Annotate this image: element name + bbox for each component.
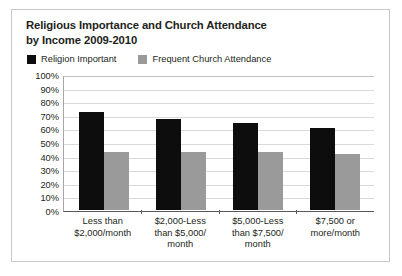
x-axis-tick-label: $5,000-Lessthan $7,500/month xyxy=(219,216,297,251)
chart-title: Religious Importance and Church Attendan… xyxy=(26,18,366,47)
bar-group xyxy=(297,76,374,210)
bar xyxy=(79,112,104,210)
x-axis-tick-mark xyxy=(296,210,297,214)
legend-label: Frequent Church Attendance xyxy=(152,54,271,64)
y-axis-tick-label: 90% xyxy=(19,85,59,95)
bar xyxy=(258,152,283,210)
y-axis-tick-label: 0% xyxy=(19,207,59,217)
bar xyxy=(181,152,206,210)
x-axis-tick-label: $7,500 ormore/month xyxy=(297,216,375,251)
chart-figure: Religious Importance and Church Attendan… xyxy=(11,9,390,262)
bar-group xyxy=(65,76,142,210)
legend-swatch-icon xyxy=(27,55,36,64)
y-axis-tick-label: 70% xyxy=(19,112,59,122)
bar xyxy=(104,152,129,210)
bar xyxy=(335,154,360,210)
y-axis-tick-label: 40% xyxy=(19,153,59,163)
y-axis-tick-label: 50% xyxy=(19,139,59,149)
y-axis-tick-label: 60% xyxy=(19,125,59,135)
y-axis-tick-label: 30% xyxy=(19,166,59,176)
x-axis-tick-mark xyxy=(219,210,220,214)
plot-area xyxy=(63,76,374,212)
x-axis-tick-label: Less than$2,000/month xyxy=(64,216,142,251)
legend-item-frequent-church-attendance: Frequent Church Attendance xyxy=(138,54,271,64)
legend-item-religion-important: Religion Important xyxy=(27,54,116,64)
plot-region: 100%90%80%70%60%50%40%30%20%10%0% xyxy=(63,76,374,212)
bar xyxy=(156,119,181,210)
chart-title-line-2: by Income 2009-2010 xyxy=(26,33,366,48)
y-axis-tick-label: 10% xyxy=(19,193,59,203)
bar-group xyxy=(142,76,219,210)
chart-title-line-1: Religious Importance and Church Attendan… xyxy=(26,19,267,31)
x-axis-tick-label: $2,000-Lessthan $5,000/month xyxy=(142,216,220,251)
bar-group xyxy=(220,76,297,210)
bar xyxy=(233,123,258,210)
legend-label: Religion Important xyxy=(41,54,116,64)
bar xyxy=(310,128,335,210)
x-axis-tick-mark xyxy=(141,210,142,214)
y-axis-tick-label: 80% xyxy=(19,98,59,108)
bar-groups xyxy=(65,76,374,210)
legend-swatch-icon xyxy=(138,55,147,64)
chart-legend: Religion Important Frequent Church Atten… xyxy=(27,54,271,64)
y-axis-tick-label: 100% xyxy=(19,71,59,81)
x-axis-tick-labels: Less than$2,000/month$2,000-Lessthan $5,… xyxy=(64,216,374,251)
y-axis-tick-label: 20% xyxy=(19,180,59,190)
